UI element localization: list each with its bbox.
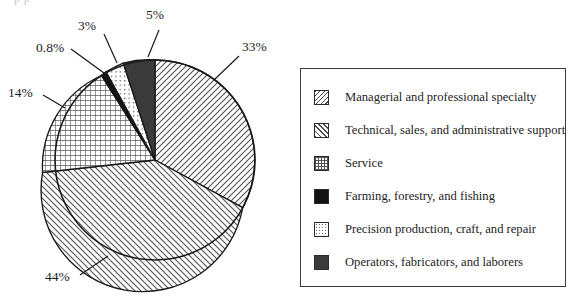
- chart-legend: Managerial and professional specialty Te…: [300, 68, 566, 287]
- slice-label-precision: 3%: [78, 19, 96, 33]
- legend-item-managerial: Managerial and professional specialty: [301, 81, 565, 114]
- legend-item-operators: Operators, fabricators, and laborers: [301, 246, 565, 279]
- legend-label-technical: Technical, sales, and administrative sup…: [345, 124, 565, 137]
- legend-swatch-backslash-hatch-icon: [314, 90, 329, 105]
- legend-label-managerial: Managerial and professional specialty: [345, 91, 536, 104]
- leader-line-operators: [148, 30, 159, 57]
- slice-label-managerial: 33%: [242, 40, 267, 54]
- leader-line-service: [43, 95, 65, 108]
- legend-item-service: Service: [301, 147, 565, 180]
- slice-label-farming: 0.8%: [36, 41, 64, 55]
- slice-label-service: 14%: [8, 86, 33, 100]
- leader-line-precision: [104, 34, 117, 63]
- slice-label-technical: 44%: [45, 270, 70, 284]
- legend-swatch-solid-black-icon: [314, 189, 329, 204]
- legend-swatch-dark-gray-icon: [314, 255, 329, 270]
- pie-chart-area: 33% 5% 3% 0.8% 14% 44%: [0, 0, 300, 304]
- leader-line-managerial: [214, 56, 239, 80]
- legend-item-technical: Technical, sales, and administrative sup…: [301, 114, 565, 147]
- legend-label-service: Service: [345, 157, 383, 170]
- legend-swatch-slash-hatch-icon: [314, 123, 329, 138]
- legend-label-operators: Operators, fabricators, and laborers: [345, 256, 523, 269]
- pie-chart-figure: p p: [0, 0, 584, 304]
- leader-line-farming: [71, 49, 104, 73]
- legend-swatch-cross-hatch-icon: [314, 156, 329, 171]
- legend-label-farming: Farming, forestry, and fishing: [345, 190, 495, 203]
- legend-swatch-dots-icon: [314, 222, 329, 237]
- legend-item-precision: Precision production, craft, and repair: [301, 213, 565, 246]
- legend-label-precision: Precision production, craft, and repair: [345, 223, 536, 236]
- slice-label-operators: 5%: [146, 8, 164, 22]
- legend-item-farming: Farming, forestry, and fishing: [301, 180, 565, 213]
